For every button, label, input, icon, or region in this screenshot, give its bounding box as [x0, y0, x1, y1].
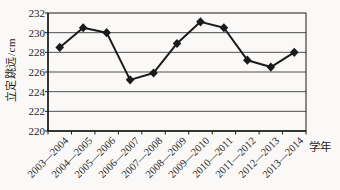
y-tick-label: 228	[15, 46, 45, 58]
data-point-marker	[290, 48, 299, 57]
y-axis-title: 立定跳远/cm	[4, 29, 18, 111]
standing-long-jump-chart: 220222224226228230232 2003—20042004—2005…	[0, 0, 340, 190]
y-tick-label: 232	[15, 7, 45, 19]
y-tick-label: 224	[15, 86, 45, 98]
y-tick-label: 222	[15, 105, 45, 117]
x-axis-title: 学年	[309, 138, 331, 154]
y-tick-label: 230	[15, 27, 45, 39]
data-line	[60, 22, 295, 80]
y-tick-label: 226	[15, 66, 45, 78]
y-tick-label: 220	[15, 125, 45, 137]
data-point-marker	[102, 28, 111, 37]
data-point-marker	[126, 75, 135, 84]
data-point-marker	[267, 62, 276, 71]
